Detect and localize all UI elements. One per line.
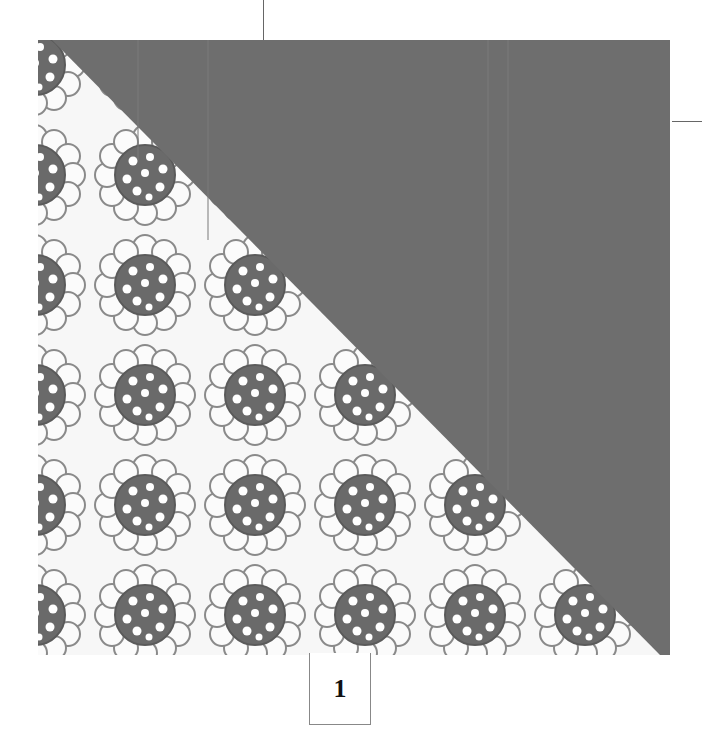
guide-line-vertical	[263, 0, 264, 42]
block-label-box: 1	[309, 653, 371, 725]
quilt-block	[38, 40, 670, 655]
guide-line-horizontal	[672, 121, 702, 122]
block-number: 1	[334, 674, 347, 704]
